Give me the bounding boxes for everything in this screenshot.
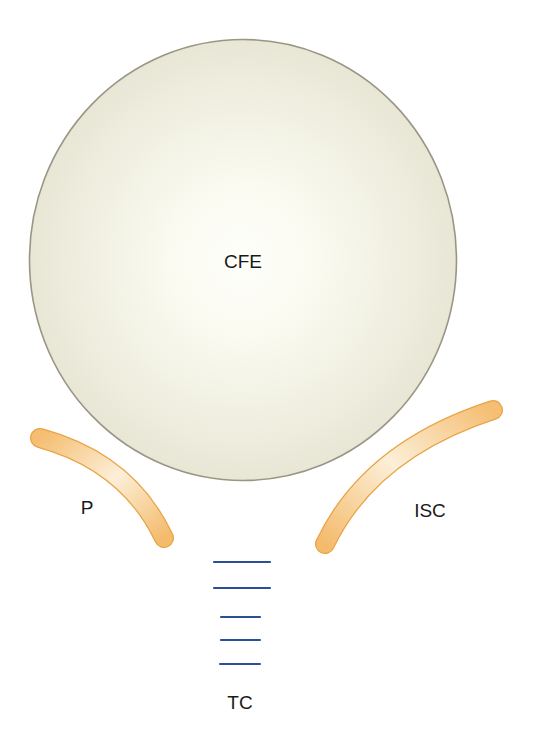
tc-label: TC bbox=[227, 692, 252, 713]
p-label: P bbox=[81, 497, 94, 518]
tc-lines bbox=[214, 562, 270, 664]
isc-label: ISC bbox=[414, 500, 446, 521]
cfe-label: CFE bbox=[224, 251, 262, 272]
diagram-canvas: CFE P ISC TC bbox=[0, 0, 537, 739]
